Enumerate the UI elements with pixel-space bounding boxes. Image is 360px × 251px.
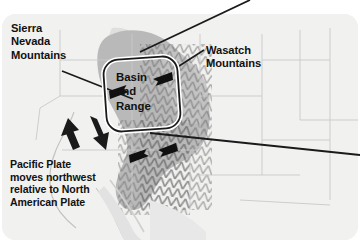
label-basin-and-range: Basin and Range: [116, 70, 172, 113]
figure-canvas: Sierra Nevada Mountains Wasatch Mountain…: [0, 0, 360, 251]
label-pacific-plate-motion: Pacific Plate moves northwest relative t…: [10, 158, 96, 208]
label-wasatch-mountains: Wasatch Mountains: [206, 44, 261, 71]
label-sierra-nevada-mountains: Sierra Nevada Mountains: [11, 22, 66, 62]
